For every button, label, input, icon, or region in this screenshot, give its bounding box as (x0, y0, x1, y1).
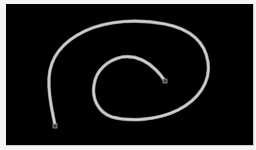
spiral-drawing (0, 0, 256, 150)
spiral-curve (49, 21, 209, 125)
curve-start-handle[interactable] (53, 124, 57, 128)
image-frame (0, 0, 256, 150)
curve-end-handle[interactable] (163, 79, 167, 83)
